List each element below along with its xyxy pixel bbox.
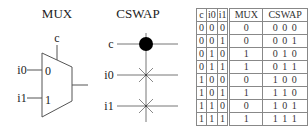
cell-i1: 0 [217, 100, 229, 113]
header-i1: i1 [217, 9, 229, 22]
table-row: 10001 0 0 [197, 74, 308, 87]
cell-c: 0 [197, 61, 207, 74]
control-dot-icon [139, 37, 153, 51]
table-row: 11001 0 1 [197, 100, 308, 113]
cell-c: 1 [197, 100, 207, 113]
cell-mux: 0 [229, 22, 263, 35]
table-row: 11111 1 1 [197, 113, 308, 126]
cell-c: 0 [197, 22, 207, 35]
cswap-control-label: c [108, 37, 113, 51]
cell-i0: 1 [206, 113, 217, 126]
cell-i1: 1 [217, 35, 229, 48]
cswap-wire1-label: i0 [104, 68, 113, 82]
truth-table: c i0 i1 MUX CSWAP 00000 0 000100 0 10101… [196, 8, 308, 126]
cell-i0: 0 [206, 87, 217, 100]
table-row: 00100 0 1 [197, 35, 308, 48]
cell-cswap: 1 1 0 [263, 87, 308, 100]
cswap-wire2-label: i1 [104, 99, 113, 113]
cell-i0: 1 [206, 100, 217, 113]
mux-port0-label: 0 [45, 64, 51, 78]
cell-cswap: 0 0 0 [263, 22, 308, 35]
cell-c: 1 [197, 87, 207, 100]
header-i0: i0 [206, 9, 217, 22]
cell-mux: 0 [229, 35, 263, 48]
cell-i0: 1 [206, 61, 217, 74]
cell-c: 1 [197, 113, 207, 126]
cell-i0: 0 [206, 35, 217, 48]
cell-i1: 1 [217, 61, 229, 74]
table-header-row: c i0 i1 MUX CSWAP [197, 9, 308, 22]
cell-c: 0 [197, 48, 207, 61]
cell-mux: 0 [229, 100, 263, 113]
table-row: 01110 1 1 [197, 61, 308, 74]
mux-control-label: c [54, 31, 59, 45]
mux-port1-label: 1 [45, 93, 51, 107]
mux-input0-label: i0 [17, 63, 26, 77]
mux-diagram: MUX c i0 0 i1 1 [17, 6, 88, 117]
cswap-diagram: CSWAP c i0 i1 [104, 6, 178, 122]
cell-i1: 1 [217, 87, 229, 100]
cell-mux: 1 [229, 87, 263, 100]
table-row: 00000 0 0 [197, 22, 308, 35]
cell-mux: 1 [229, 48, 263, 61]
cell-mux: 1 [229, 61, 263, 74]
gate-diagrams: MUX c i0 0 i1 1 CSWAP c i0 i1 [0, 0, 196, 129]
header-mux: MUX [229, 9, 263, 22]
cell-cswap: 1 0 1 [263, 100, 308, 113]
mux-title: MUX [42, 6, 73, 21]
cell-i0: 1 [206, 48, 217, 61]
header-c: c [197, 9, 207, 22]
cell-cswap: 0 0 1 [263, 35, 308, 48]
cell-cswap: 1 0 0 [263, 74, 308, 87]
cell-cswap: 1 1 1 [263, 113, 308, 126]
cell-i1: 0 [217, 48, 229, 61]
cswap-title: CSWAP [116, 6, 159, 21]
header-cswap: CSWAP [263, 9, 308, 22]
cell-c: 0 [197, 35, 207, 48]
cell-i1: 0 [217, 22, 229, 35]
cell-i1: 1 [217, 113, 229, 126]
cell-i1: 0 [217, 74, 229, 87]
mux-input1-label: i1 [17, 91, 26, 105]
cell-cswap: 0 1 1 [263, 61, 308, 74]
cell-i0: 0 [206, 74, 217, 87]
cell-c: 1 [197, 74, 207, 87]
cell-cswap: 0 1 0 [263, 48, 308, 61]
table-row: 01010 1 0 [197, 48, 308, 61]
cell-i0: 0 [206, 22, 217, 35]
table-row: 10111 1 0 [197, 87, 308, 100]
cell-mux: 1 [229, 113, 263, 126]
cell-mux: 0 [229, 74, 263, 87]
mux-trapezoid-shape [42, 53, 72, 117]
